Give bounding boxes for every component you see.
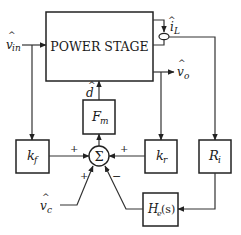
fm-block: F m — [83, 100, 115, 134]
svg-text:m: m — [100, 116, 109, 126]
d-signal: ^ d — [86, 80, 96, 100]
svg-text:v: v — [177, 65, 184, 79]
he-block: H e (s) — [143, 193, 178, 226]
he-to-sum-line — [105, 166, 143, 209]
power-stage-label: POWER STAGE — [50, 39, 148, 54]
power-stage-block: POWER STAGE — [46, 12, 153, 81]
svg-text:(s): (s) — [161, 203, 175, 216]
he-sign: − — [112, 170, 121, 183]
kf-block: k f — [16, 140, 49, 173]
kr-sign: + — [120, 143, 128, 154]
svg-text:i: i — [218, 155, 221, 165]
svg-text:v: v — [40, 199, 47, 213]
kf-sign: + — [70, 143, 78, 154]
il-to-ri-line — [169, 37, 215, 140]
vc-sign: + — [80, 170, 88, 181]
sigma-icon: Σ — [94, 149, 103, 164]
svg-text:c: c — [47, 205, 52, 215]
vc-signal: ^ v c — [40, 192, 52, 215]
vo-signal: ^ v o — [177, 58, 190, 81]
svg-text:o: o — [184, 71, 190, 81]
ri-to-he-line — [178, 173, 215, 209]
summing-junction: Σ — [89, 146, 109, 166]
kr-block: k r — [145, 140, 177, 173]
vin-signal: ^ v in — [6, 30, 21, 53]
svg-text:in: in — [12, 43, 21, 53]
il-sense: ^ i L — [153, 15, 180, 45]
block-diagram: POWER STAGE ^ v in ^ i L ^ v o ^ d F m — [0, 0, 241, 235]
ri-block: R i — [199, 140, 231, 173]
svg-text:r: r — [163, 155, 168, 165]
current-sensor-icon — [159, 33, 169, 39]
svg-text:L: L — [173, 26, 180, 36]
svg-text:d: d — [86, 86, 94, 100]
